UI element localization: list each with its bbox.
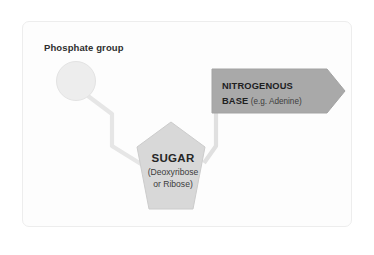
sugar-title: SUGAR bbox=[128, 152, 218, 164]
phosphate-circle bbox=[57, 62, 96, 101]
base-title-line1: NITROGENOUS bbox=[222, 81, 293, 91]
sugar-text: SUGAR (Deoxyribose or Ribose) bbox=[128, 152, 218, 190]
diagram-canvas: Phosphate group NITROGENOUS BASE (e.g. A… bbox=[0, 0, 374, 255]
nucleotide-diagram bbox=[0, 0, 374, 255]
base-line-1: NITROGENOUS bbox=[222, 78, 342, 93]
sugar-subtitle-line2: or Ribose) bbox=[128, 178, 218, 190]
nitrogenous-base-text: NITROGENOUS BASE (e.g. Adenine) bbox=[222, 78, 342, 108]
base-example-text: (e.g. Adenine) bbox=[248, 97, 301, 106]
sugar-subtitle-line1: (Deoxyribose bbox=[128, 166, 218, 178]
base-line-2: BASE (e.g. Adenine) bbox=[222, 93, 342, 109]
phosphate-group-label: Phosphate group bbox=[44, 42, 124, 53]
base-title-line2: BASE bbox=[222, 96, 248, 106]
